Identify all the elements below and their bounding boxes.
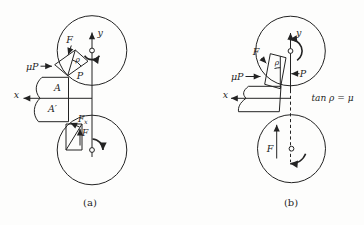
panel-a-lower-f-label: F: [81, 128, 89, 138]
panel-b-lower-rotation-arrow-icon: [290, 154, 305, 164]
panel-b-equation: tan ρ = μ: [311, 93, 353, 103]
panel-a: y x A A′ ρ P F μP F x F (a): [14, 16, 127, 208]
panel-a-mu-p-label: μP: [26, 61, 39, 72]
panel-b-rho-angle-arc: [275, 68, 281, 69]
panel-a-rho-label: ρ: [74, 55, 80, 64]
panel-b-x-axis-label: x: [223, 89, 229, 100]
panel-a-caption: (a): [83, 197, 97, 208]
panel-b-y-axis-label: y: [295, 27, 302, 38]
diagram-canvas: y x A A′ ρ P F μP F x F (a): [0, 0, 364, 225]
friction-angle-figure: y x A A′ ρ P F μP F x F (a): [0, 0, 364, 225]
panel-a-point-a-prime-label: A′: [47, 103, 58, 114]
panel-b-caption: (b): [284, 197, 298, 208]
panel-b-mu-p-label: μP: [231, 71, 244, 82]
panel-b-rho-label: ρ: [274, 58, 280, 67]
panel-a-upper-pivot-icon: [90, 48, 95, 53]
panel-a-p-label: P: [76, 70, 84, 81]
panel-a-fx-label-subscript: x: [84, 118, 88, 126]
panel-b-force-f-label: F: [252, 46, 260, 57]
panel-b: y x ρ F P μP tan ρ = μ F (b): [223, 16, 354, 208]
panel-a-rack-block: [34, 77, 68, 121]
panel-a-force-f-label: F: [65, 34, 73, 45]
panel-b-p-label: P: [299, 68, 307, 79]
panel-b-lower-f-label: F: [266, 143, 274, 154]
panel-a-y-axis-label: y: [97, 27, 104, 38]
panel-a-x-axis-label: x: [14, 89, 20, 100]
panel-b-rack-block: [238, 86, 281, 111]
panel-b-force-f-arrow: [262, 58, 267, 63]
panel-a-lower-pivot-icon: [90, 148, 95, 153]
panel-a-point-a-label: A: [53, 82, 61, 93]
panel-b-lower-pivot-icon: [289, 146, 294, 151]
panel-b-upper-pivot-icon: [288, 49, 293, 54]
